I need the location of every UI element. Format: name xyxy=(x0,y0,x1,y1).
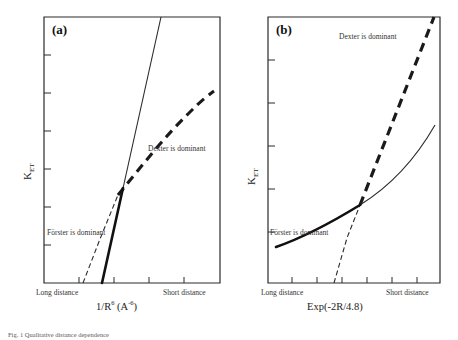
panel-a-forster-annotation: Förster is dominant xyxy=(47,229,105,237)
panel-a-dexter-bold-line xyxy=(118,91,214,195)
panel-b-x-axis-title: Exp(-2R/4.8) xyxy=(307,300,363,312)
panel-a-x-title-unit: (A xyxy=(114,301,128,312)
panel-a-y-title-sub: ET xyxy=(28,163,36,172)
panel-a-plot xyxy=(0,0,240,320)
panel-a-dexter-annotation: Dexter is dominant xyxy=(148,145,206,153)
figure-caption: Fig. 1 Qualitative distance dependence xyxy=(8,331,109,338)
panel-b-tag: (b) xyxy=(276,23,292,36)
panel-b-dexter-annotation: Dexter is dominant xyxy=(339,33,397,41)
panel-a-tag: (a) xyxy=(52,23,67,36)
panel-b-plot xyxy=(229,0,458,320)
panel-b: (b) Dexter is dominant Förster is domina… xyxy=(229,0,458,320)
panel-b-y-ticks xyxy=(268,60,275,232)
panel-a-x-axis-title: 1/R6 (A-6) xyxy=(96,300,137,312)
panel-b-forster-annotation: Förster is dominant xyxy=(270,229,328,237)
panel-a-x-title-main: 1/R xyxy=(96,301,111,312)
panel-b-axes xyxy=(268,17,440,283)
panel-b-x-title-main: Exp(-2R/4.8) xyxy=(307,301,363,312)
panel-a-x-title-close: ) xyxy=(134,301,138,312)
panel-b-x-right-label: Short distance xyxy=(386,289,429,297)
panel-a-y-axis-title: KET xyxy=(22,163,36,180)
panel-a-x-right-label: Short distance xyxy=(163,289,206,297)
panel-b-y-title-sub: ET xyxy=(252,168,260,177)
panel-b-y-axis-title: KET xyxy=(246,168,260,185)
panel-a-y-ticks xyxy=(44,55,51,245)
panel-b-y-title-main: K xyxy=(245,177,257,185)
panel-a-y-title-main: K xyxy=(21,172,33,180)
panel-b-x-left-label: Long distance xyxy=(261,289,303,297)
panel-a-x-left-label: Long distance xyxy=(36,289,78,297)
panel-a-x-ticks xyxy=(79,277,184,283)
panel-b-forster-bold-line xyxy=(276,205,360,247)
panel-b-x-ticks xyxy=(292,277,417,283)
panel-b-dexter-bold-line xyxy=(360,17,434,205)
figure-container: (a) Förster is dominant Dexter is domina… xyxy=(0,0,458,340)
panel-a: (a) Förster is dominant Dexter is domina… xyxy=(0,0,240,320)
